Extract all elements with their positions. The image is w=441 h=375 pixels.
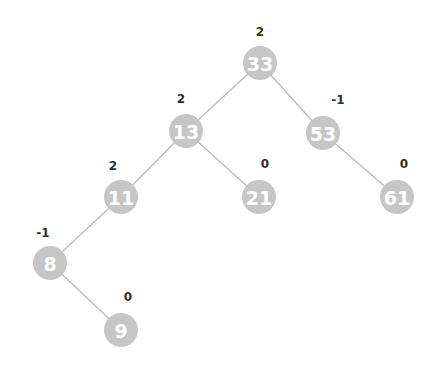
tree-edges: [50, 63, 397, 330]
balance-factor: 2: [109, 159, 117, 173]
node-value: 61: [384, 187, 410, 209]
tree-node-9: 90: [104, 290, 138, 347]
node-value: 9: [114, 320, 127, 342]
balance-factor: 0: [400, 157, 408, 171]
balance-factor: 0: [124, 290, 132, 304]
balance-factor: 2: [177, 92, 185, 106]
tree-node-8: 8-1: [33, 226, 67, 280]
node-value: 33: [247, 53, 273, 75]
tree-node-33: 332: [243, 25, 277, 80]
balance-factor: -1: [331, 93, 344, 107]
avl-tree-diagram: 33213253-11122106108-190: [0, 0, 441, 375]
tree-node-61: 610: [380, 157, 414, 214]
node-value: 21: [246, 187, 272, 209]
tree-node-13: 132: [169, 92, 203, 148]
tree-node-53: 53-1: [306, 93, 345, 150]
tree-nodes: 33213253-11122106108-190: [33, 25, 414, 347]
node-value: 13: [173, 121, 199, 143]
node-value: 53: [310, 123, 336, 145]
tree-node-11: 112: [104, 159, 138, 214]
node-value: 11: [108, 187, 134, 209]
tree-node-21: 210: [242, 157, 276, 214]
balance-factor: -1: [36, 226, 49, 240]
balance-factor: 2: [256, 25, 264, 39]
balance-factor: 0: [261, 157, 269, 171]
node-value: 8: [43, 253, 56, 275]
